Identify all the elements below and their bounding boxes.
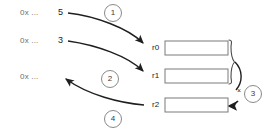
register-box-r2 [165, 98, 228, 112]
diagram-canvas [0, 0, 272, 133]
step-label-1: 1 [108, 8, 118, 17]
brace-group-r0-r1 [229, 40, 235, 84]
memory-value-5: 5 [58, 7, 63, 17]
register-label-r0: r0 [152, 43, 159, 52]
register-dataflow-diagram: 0x ... 0x ... 0x ... 5 3 r0 r1 r2 1 2 3 … [0, 0, 272, 133]
memory-address-label-2: 0x ... [20, 36, 39, 45]
arrow-step3-multiply-path [235, 62, 241, 90]
memory-address-label-3: 0x ... [20, 72, 39, 81]
arrow-step3-into-r2 [229, 101, 238, 106]
arrow-step2-load-r1 [68, 41, 143, 71]
memory-value-3: 3 [58, 35, 63, 45]
multiply-operator-symbol: × [237, 87, 241, 94]
memory-address-label-1: 0x ... [20, 8, 39, 17]
step-label-3: 3 [248, 89, 258, 98]
register-box-r0 [165, 41, 228, 55]
register-label-r2: r2 [152, 100, 159, 109]
step-label-2: 2 [105, 74, 115, 83]
register-box-r1 [165, 69, 228, 83]
step-label-4: 4 [108, 114, 118, 123]
register-label-r1: r1 [152, 71, 159, 80]
